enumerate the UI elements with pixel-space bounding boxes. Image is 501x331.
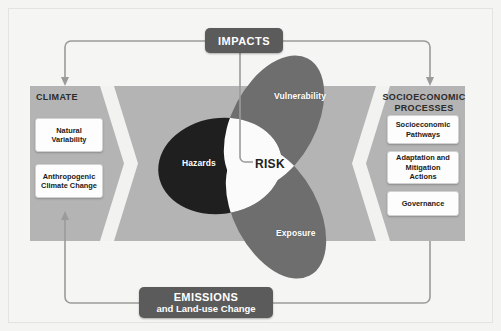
card-adaptation-and-mitigation-actions[interactable]: Adaptation and Mitigation Actions — [387, 151, 459, 184]
venn-label-exposure: Exposure — [276, 228, 316, 238]
emissions-box-line2: and Land-use Change — [156, 303, 255, 315]
emissions-box-line1: EMISSIONS — [174, 291, 239, 303]
impacts-box[interactable]: IMPACTS — [205, 28, 283, 53]
climate-panel-title: CLIMATE — [30, 92, 108, 103]
socioeconomic-panel-title: SOCIOECONOMIC PROCESSES — [381, 92, 467, 114]
card-anthropogenic-climate-change[interactable]: Anthropogenic Climate Change — [35, 164, 103, 198]
climate-card-list: Natural Variability Anthropogenic Climat… — [35, 118, 103, 198]
card-governance[interactable]: Governance — [387, 191, 459, 216]
climate-panel: CLIMATE — [30, 92, 108, 103]
venn-label-vulnerability: Vulnerability — [274, 91, 326, 101]
socioeconomic-card-list: Socioeconomic Pathways Adaptation and Mi… — [387, 115, 459, 216]
socioeconomic-panel: SOCIOECONOMIC PROCESSES — [381, 92, 467, 114]
card-natural-variability[interactable]: Natural Variability — [35, 118, 103, 152]
venn-label-hazards: Hazards — [182, 158, 216, 168]
venn-label-risk: RISK — [255, 157, 285, 171]
emissions-box[interactable]: EMISSIONS and Land-use Change — [139, 287, 273, 318]
card-socioeconomic-pathways[interactable]: Socioeconomic Pathways — [387, 115, 459, 144]
figure-root: Hazards Vulnerability Exposure RISK CLIM… — [0, 0, 501, 331]
